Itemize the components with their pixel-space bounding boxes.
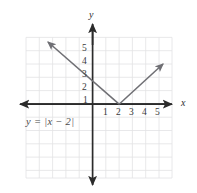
y-tick-label-1: 1 [83,96,88,106]
y-axis-label: y [89,10,93,20]
x-tick-label-1: 1 [103,108,108,118]
x-tick-label-2: 2 [116,108,121,118]
x-tick-label-4: 4 [142,108,147,118]
y-tick-label-4: 4 [82,57,87,67]
absolute-value-graph-figure: 5 4 3 2 1 1 2 3 4 5 x y y = |x − 2| [0,0,197,193]
y-tick-label-2: 2 [82,83,87,93]
y-tick-label-5: 5 [82,44,87,54]
equation-annotation: y = |x − 2| [26,116,74,127]
y-tick-label-3: 3 [82,70,87,80]
x-tick-label-3: 3 [129,108,134,118]
coordinate-plane-svg [0,0,197,193]
grid-lines [26,37,172,178]
x-axis-label: x [181,98,185,108]
curve-right-branch [119,64,163,104]
axis-lines [20,24,172,185]
x-tick-label-5: 5 [155,108,160,118]
